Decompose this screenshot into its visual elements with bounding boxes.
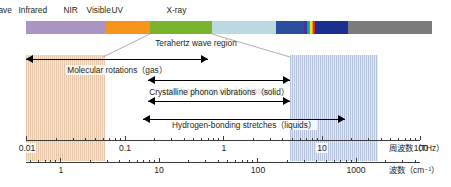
arrow-head-right-icon — [283, 76, 290, 84]
frequency-axis-minor-tick — [85, 138, 86, 141]
frequency-axis-tick-label: 0.1 — [118, 143, 132, 153]
frequency-axis-minor-tick — [312, 138, 313, 141]
frequency-axis-major-tick — [223, 136, 224, 140]
wavenumber-axis-minor-tick — [55, 160, 56, 163]
arrow-shaft — [148, 101, 290, 102]
wavenumber-axis-minor-tick — [143, 160, 144, 163]
wavenumber-axis-minor-tick — [45, 160, 46, 163]
frequency-axis-title: 周波数（THz） — [389, 143, 444, 154]
wavenumber-axis-minor-tick — [351, 160, 352, 163]
arrow-head-left-icon — [148, 97, 155, 105]
frequency-axis-minor-tick — [218, 138, 219, 141]
wavenumber-axis-minor-tick — [252, 160, 253, 163]
wavenumber-axis-minor-tick — [154, 160, 155, 163]
thz-spectrum-figure: Radio waveMicrowaveTerahertz waveInfrare… — [0, 0, 451, 187]
frequency-axis-minor-tick — [317, 138, 318, 141]
spectrum-label-visible: Visible — [87, 5, 111, 15]
wavenumber-axis-minor-tick — [287, 160, 288, 163]
arrow-label-molecular-rotations: Molecular rotations（gas） — [66, 65, 167, 75]
frequency-axis-minor-tick — [208, 138, 209, 141]
wavenumber-axis-minor-tick — [247, 160, 248, 163]
frequency-axis-minor-tick — [120, 138, 121, 141]
wavenumber-axis-minor-tick — [346, 160, 347, 163]
spectrum-label-x-ray: X-ray — [167, 5, 187, 15]
wavenumber-axis-minor-tick — [119, 160, 120, 163]
arrow-head-left-icon — [148, 76, 155, 84]
frequency-axis-minor-tick — [73, 138, 74, 141]
frequency-axis-minor-tick — [109, 138, 110, 141]
frequency-axis-minor-tick — [154, 138, 155, 141]
frequency-axis-minor-tick — [95, 138, 96, 141]
frequency-axis-minor-tick — [201, 138, 202, 141]
wavenumber-axis-minor-tick — [38, 160, 39, 163]
wavenumber-axis-minor-tick — [188, 160, 189, 163]
frequency-axis-minor-tick — [300, 138, 301, 141]
wavenumber-axis-minor-tick — [235, 160, 236, 163]
frequency-axis-minor-tick — [368, 138, 369, 141]
frequency-axis-tick-label: 10 — [316, 143, 328, 153]
arrow-head-left-icon — [143, 115, 150, 123]
wavenumber-axis-minor-tick — [316, 160, 317, 163]
terahertz-band-high — [290, 55, 378, 161]
frequency-axis-minor-tick — [351, 138, 352, 141]
frequency-axis-minor-tick — [306, 138, 307, 141]
wavenumber-axis-tick-label: 1 — [58, 165, 65, 175]
wavenumber-axis-minor-tick — [149, 160, 150, 163]
wavenumber-axis-tick-label: 10 — [153, 165, 165, 175]
wavenumber-axis-tick-label: 100 — [250, 165, 266, 175]
spectrum-segment-x-ray — [348, 21, 432, 34]
wavenumber-axis-tick-label: 1000 — [345, 165, 366, 175]
wavenumber-axis-minor-tick — [385, 160, 386, 163]
wavenumber-axis-line — [26, 162, 420, 163]
wavenumber-axis-minor-tick — [334, 160, 335, 163]
wavenumber-axis-major-tick — [356, 158, 357, 162]
arrow-shaft — [148, 80, 290, 81]
wavenumber-axis-title: 波数（cm⁻¹） — [389, 165, 439, 176]
spectrum-segment-infrared — [212, 21, 276, 34]
frequency-axis-minor-tick — [381, 138, 382, 141]
frequency-axis-minor-tick — [56, 138, 57, 141]
wavenumber-axis-minor-tick — [340, 160, 341, 163]
frequency-axis-minor-tick — [398, 138, 399, 141]
spectrum-label-nir: NIR — [64, 5, 78, 15]
wavenumber-axis-minor-tick — [30, 160, 31, 163]
frequency-axis-minor-tick — [253, 138, 254, 141]
frequency-axis-major-tick — [125, 136, 126, 140]
wavenumber-axis-major-tick — [159, 158, 160, 162]
spectrum-label-terahertz-wave: Terahertz wave — [0, 5, 12, 15]
frequency-axis-minor-tick — [410, 138, 411, 141]
wavenumber-axis-minor-tick — [304, 160, 305, 163]
wavenumber-axis-minor-tick — [50, 160, 51, 163]
wavenumber-axis-minor-tick — [90, 160, 91, 163]
arrow-head-left-icon — [26, 55, 33, 63]
wavenumber-axis-minor-tick — [129, 160, 130, 163]
frequency-axis-minor-tick — [171, 138, 172, 141]
arrow-head-right-icon — [283, 97, 290, 105]
frequency-axis-major-tick — [322, 136, 323, 140]
frequency-axis-line — [26, 140, 420, 141]
arrow-head-right-icon — [201, 55, 208, 63]
spectrum-segment-nir — [276, 21, 304, 34]
frequency-axis-minor-tick — [193, 138, 194, 141]
wavenumber-axis-major-tick — [257, 158, 258, 162]
spectrum-label-infrared: Infrared — [19, 5, 48, 15]
frequency-axis-major-tick — [420, 136, 421, 140]
wavenumber-axis-minor-tick — [218, 160, 219, 163]
spectrum-bar — [0, 21, 451, 34]
frequency-axis-minor-tick — [282, 138, 283, 141]
spectrum-segment-radio-wave — [26, 21, 106, 34]
frequency-axis-minor-tick — [213, 138, 214, 141]
frequency-axis-major-tick — [26, 136, 27, 140]
callout-line-left — [103, 34, 150, 57]
frequency-axis-tick-label: 1 — [221, 143, 228, 153]
wavenumber-axis-minor-tick — [415, 160, 416, 163]
frequency-axis-minor-tick — [292, 138, 293, 141]
arrow-low-frequency-bond-vibrations — [148, 76, 290, 85]
frequency-axis-minor-tick — [184, 138, 185, 141]
spectrum-label-uv: UV — [112, 5, 124, 15]
frequency-axis-minor-tick — [415, 138, 416, 141]
wavenumber-axis-major-tick — [60, 158, 61, 162]
arrow-shaft — [26, 59, 208, 60]
spectrum-segment-microwave — [106, 21, 150, 34]
frequency-axis-minor-tick — [390, 138, 391, 141]
